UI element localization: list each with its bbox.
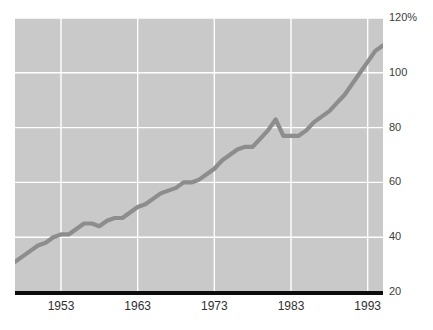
- plot-area: [15, 18, 383, 292]
- x-tick-label-1983: 1983: [278, 300, 305, 312]
- y-tick-label-100: 100: [389, 67, 407, 78]
- x-tick-label-1953: 1953: [48, 300, 75, 312]
- horizontal-gridlines: [15, 18, 383, 292]
- x-tick-label-1973: 1973: [201, 300, 228, 312]
- y-tick-label-120: 120%: [389, 12, 417, 23]
- vertical-gridlines: [61, 18, 368, 292]
- y-tick-label-60: 60: [389, 176, 401, 187]
- chart-title-clipped: [0, 0, 433, 5]
- y-tick-label-40: 40: [389, 231, 401, 242]
- x-tick-label-1993: 1993: [354, 300, 381, 312]
- y-tick-label-80: 80: [389, 122, 401, 133]
- chart-figure: 120%10080604020 19531963197319831993: [0, 0, 433, 330]
- x-axis-line: [15, 291, 383, 295]
- plot-svg: [15, 18, 383, 292]
- x-tick-label-1963: 1963: [124, 300, 151, 312]
- data-series-group: [15, 45, 383, 261]
- data-line-1: [15, 45, 383, 261]
- y-tick-label-20: 20: [389, 286, 401, 297]
